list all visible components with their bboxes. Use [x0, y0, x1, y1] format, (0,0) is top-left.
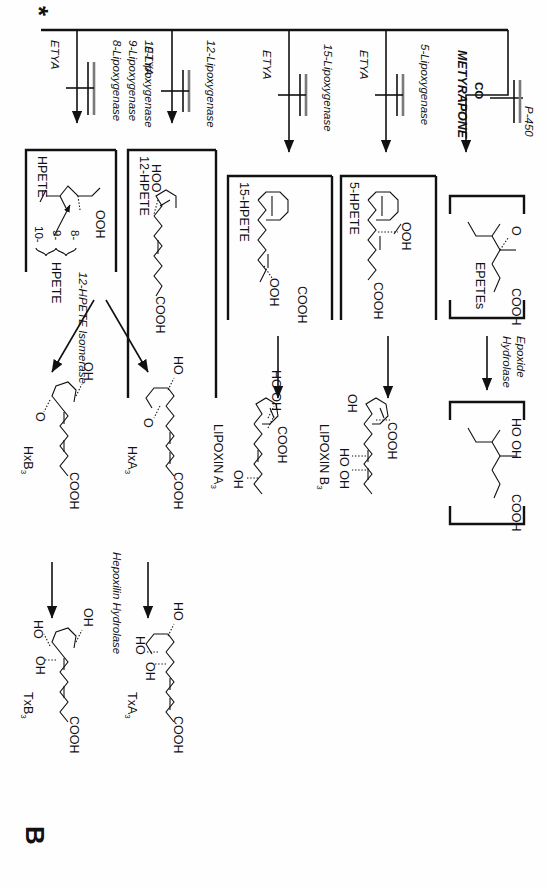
hxb3-text: HxB	[21, 446, 35, 470]
group-oh-txb3-2: OH	[34, 656, 47, 675]
group-cooh-15: COOH	[296, 286, 309, 324]
enzyme-15-lipoxygenase: 15-Lipoxygenase	[322, 44, 334, 132]
txb3-sub: 3	[19, 714, 28, 718]
inhibitor-etya-12: ETYA	[143, 46, 155, 75]
bond-hxb3-oh	[76, 384, 82, 396]
group-hooh-diol: HO OH	[510, 418, 523, 459]
lipoxin-a3-sub: 3	[209, 484, 218, 488]
group-oh-hxb3: OH	[82, 362, 95, 381]
group-oh-lxb3-1: OH	[346, 394, 359, 413]
enzyme-hepoxilin-hydrolase: Hepoxilin Hydrolase	[111, 552, 123, 654]
enzyme-epoxide-hydrolase-line1: Epoxide	[515, 336, 527, 378]
group-ooh-15: OOH	[268, 278, 281, 306]
origin-asterisk: *	[26, 6, 52, 16]
inhibitor-co: CO	[473, 82, 485, 99]
group-hooh-lxa3: HO OH	[270, 370, 283, 411]
label-epetes: EPETEs	[474, 262, 487, 309]
structure-5hpete	[368, 192, 401, 280]
brace-hpete	[36, 248, 76, 256]
inhibitor-bar-12	[161, 70, 189, 112]
txa3-text: TxA	[125, 692, 139, 714]
bond-hxa3-o	[154, 406, 160, 418]
group-cooh-txa3: COOH	[172, 716, 185, 754]
inhibitor-bar-p450	[490, 80, 523, 123]
bond-hxb3-o	[44, 400, 50, 412]
label-15-hpete: 15-HPETE	[238, 182, 251, 242]
group-ooh-8910: OOH	[94, 210, 107, 238]
group-cooh-12: COOH	[154, 296, 167, 334]
group-cooh-hxb3: COOH	[68, 472, 81, 510]
group-cooh-5: COOH	[372, 282, 385, 320]
inhibitor-bar-15	[278, 74, 306, 116]
group-ho-txb3: HO	[32, 620, 45, 639]
group-oh-txb3-1: OH	[82, 608, 95, 627]
enzyme-9-lipoxygenase: 9-Lipoxygenase	[127, 40, 139, 121]
group-hoo-12: HOO	[150, 164, 163, 192]
prefix-8: 8-	[69, 230, 81, 240]
group-ooh-5: OOH	[400, 222, 413, 250]
structure-8910hpete	[40, 186, 100, 208]
label-hpete-box: HPETE	[36, 156, 49, 198]
txa3-sub: 3	[123, 714, 132, 718]
structure-12hpete	[154, 190, 176, 296]
group-cooh-lxb3: COOH	[386, 422, 399, 460]
group-ho-txa3-2: HO	[134, 636, 147, 655]
hxa3-sub: 3	[123, 470, 132, 474]
inhibitor-etya-5: ETYA	[358, 50, 370, 79]
label-lipoxin-a3: LIPOXIN A3	[209, 424, 225, 489]
lipoxin-b3-sub: 3	[315, 485, 324, 489]
structure-hxa3	[146, 388, 174, 476]
label-hxa3: HxA3	[123, 446, 139, 474]
bond-epoxide-dotted	[500, 238, 508, 250]
group-hooh-lxb3: HO OH	[338, 448, 351, 489]
label-5-hpete: 5-HPETE	[348, 182, 361, 235]
enzyme-epoxide-hydrolase-line2: Hydrolase	[501, 336, 513, 388]
label-hxb3: HxB3	[19, 446, 35, 474]
enzyme-p450: P-450	[523, 106, 535, 137]
group-o-epete: O	[510, 226, 523, 236]
group-oh-txa3: OH	[144, 662, 157, 681]
hxb3-sub: 3	[19, 470, 28, 474]
group-cooh-lxa3: COOH	[276, 426, 289, 464]
structure-txb3	[52, 628, 76, 722]
figure-page: * B 8-Lipoxygenase 9-Lipoxygenase 10-Lip…	[0, 0, 546, 888]
pathway-canvas: * B 8-Lipoxygenase 9-Lipoxygenase 10-Lip…	[0, 0, 546, 888]
panel-label: B	[22, 826, 48, 845]
group-cooh-txb3: COOH	[68, 716, 81, 754]
structure-15hpete	[258, 192, 288, 282]
prefix-9: 9-	[51, 230, 63, 240]
hxa3-text: HxA	[125, 446, 139, 470]
lipoxin-b3-text: LIPOXIN B	[317, 424, 331, 485]
inhibitor-etya-15: ETYA	[261, 50, 273, 79]
enzyme-8-lipoxygenase: 8-Lipoxygenase	[111, 40, 123, 121]
group-oh-lxa3: OH	[232, 470, 245, 489]
label-lipoxin-b3: LIPOXIN B3	[315, 424, 331, 490]
inhibitor-etya-8910: ETYA	[49, 40, 61, 69]
structure-hxb3	[52, 382, 76, 476]
label-hpete-brace: HPETE	[50, 262, 63, 304]
bracket-epetes-left	[450, 196, 524, 214]
bond-hxa3-ho	[168, 378, 174, 390]
group-o-hxa3: O	[142, 418, 155, 428]
enzyme-5-lipoxygenase: 5-Lipoxygenase	[419, 44, 431, 125]
group-ho-hxa3: HO	[172, 356, 185, 375]
group-cooh-hxa3: COOH	[172, 472, 185, 510]
label-txb3: TxB3	[19, 692, 35, 719]
group-ho-txa3-1: HO	[172, 602, 185, 621]
enzyme-12-lipoxygenase: 12-Lipoxygenase	[205, 40, 217, 128]
inhibitor-bar-8910	[66, 62, 94, 115]
bond-hpete-ooh	[78, 196, 80, 210]
prefix-10: 10-	[33, 226, 45, 243]
label-txa3: TxA3	[123, 692, 139, 719]
bond-txb3-oh1	[76, 630, 82, 642]
group-o-hxb3: O	[34, 412, 47, 422]
inhibitor-metyrapone: METYRAPONE	[456, 50, 469, 138]
group-cooh-epete: COOH	[510, 288, 523, 326]
group-cooh-diol: COOH	[510, 494, 523, 532]
bond-lxa3-oh2	[268, 416, 274, 428]
lipoxin-a3-text: LIPOXIN A	[211, 424, 225, 484]
txb3-text: TxB	[21, 692, 35, 714]
inhibitor-bar-5	[375, 74, 403, 116]
bond-txa3-ho1	[168, 624, 174, 636]
